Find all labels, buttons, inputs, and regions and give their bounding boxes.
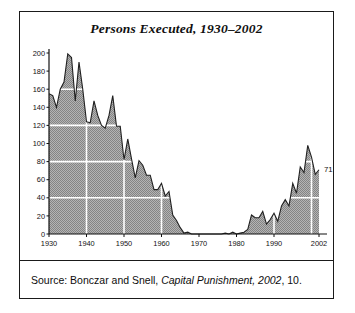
svg-text:1940: 1940 bbox=[78, 239, 94, 248]
svg-text:0: 0 bbox=[41, 230, 45, 239]
source-prefix: Source: Bonczar and Snell, bbox=[31, 274, 161, 286]
svg-text:100: 100 bbox=[33, 139, 45, 148]
source-divider bbox=[20, 260, 333, 262]
svg-text:80: 80 bbox=[37, 157, 45, 166]
chart-title: Persons Executed, 1930–2002 bbox=[20, 21, 333, 37]
chart-annotations: 71 bbox=[324, 165, 333, 174]
svg-text:200: 200 bbox=[33, 49, 45, 58]
svg-text:160: 160 bbox=[33, 85, 45, 94]
chart-plot-area: 020406080100120140160180200 193019401950… bbox=[20, 42, 335, 260]
y-axis-tick-labels: 020406080100120140160180200 bbox=[33, 49, 49, 239]
svg-text:71: 71 bbox=[324, 165, 333, 174]
svg-text:140: 140 bbox=[33, 103, 45, 112]
svg-text:1990: 1990 bbox=[266, 239, 282, 248]
figure-frame: Persons Executed, 1930–2002 020406080100… bbox=[19, 11, 334, 299]
svg-text:2002: 2002 bbox=[311, 239, 327, 248]
svg-text:20: 20 bbox=[37, 212, 45, 221]
svg-text:1970: 1970 bbox=[191, 239, 207, 248]
svg-text:1960: 1960 bbox=[153, 239, 169, 248]
source-title: Capital Punishment, 2002 bbox=[161, 274, 281, 286]
svg-text:1980: 1980 bbox=[228, 239, 244, 248]
chart-area-series bbox=[49, 53, 319, 234]
source-citation: Source: Bonczar and Snell, Capital Punis… bbox=[31, 274, 302, 286]
svg-text:60: 60 bbox=[37, 175, 45, 184]
svg-text:1930: 1930 bbox=[41, 239, 57, 248]
svg-text:120: 120 bbox=[33, 121, 45, 130]
svg-text:40: 40 bbox=[37, 193, 45, 202]
source-suffix: , 10. bbox=[281, 274, 301, 286]
executions-area-chart: 020406080100120140160180200 193019401950… bbox=[20, 42, 335, 260]
x-axis-tick-labels: 19301940195019601970198019902002 bbox=[41, 234, 327, 248]
svg-text:180: 180 bbox=[33, 67, 45, 76]
svg-text:1950: 1950 bbox=[116, 239, 132, 248]
